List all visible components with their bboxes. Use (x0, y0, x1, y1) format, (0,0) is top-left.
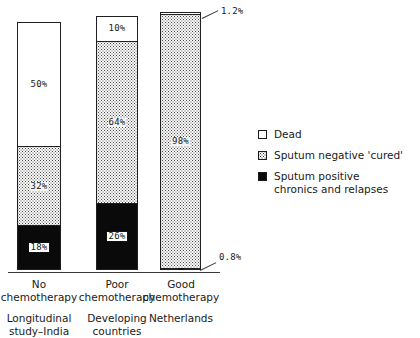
x-tick-secondary-label: Netherlands (133, 312, 229, 325)
x-tick-primary-label: Good chemotherapy (133, 278, 229, 304)
callout-sputum-positive-good-chemotherapy: 0.8% (219, 252, 241, 262)
bar-segment-cured[interactable]: 98% (160, 14, 201, 269)
legend-swatch-dead-icon (258, 130, 267, 139)
bar-segment-label-sputum-positive: 26% (106, 231, 129, 242)
legend-label-dead: Dead (274, 128, 302, 141)
legend-label-sputum-positive: Sputum positive chronics and relapses (274, 170, 388, 196)
bar-segment-label-sputum-positive: 18% (28, 242, 51, 253)
bar-segment-cured[interactable]: 32% (17, 146, 61, 226)
legend-item-dead[interactable]: Dead (258, 128, 418, 141)
x-tick-good-chemotherapy: Good chemotherapy Netherlands (133, 278, 229, 325)
bar-no-chemotherapy[interactable]: 50% 32% 18% (17, 22, 61, 272)
bar-segment-sputum-positive[interactable] (160, 268, 201, 270)
bar-good-chemotherapy[interactable]: 98% (160, 12, 201, 272)
bar-segment-label-cured: 98% (171, 137, 190, 146)
bar-segment-sputum-positive[interactable]: 26% (96, 203, 138, 270)
callout-dead-good-chemotherapy: 1.2% (221, 6, 243, 16)
bar-segment-dead[interactable]: 50% (17, 22, 61, 147)
callout-leader-line-top (202, 10, 219, 19)
bar-segment-cured[interactable]: 64% (96, 41, 138, 205)
bar-segment-label-cured: 64% (108, 118, 127, 127)
legend-swatch-cured-icon (258, 151, 267, 160)
x-axis-baseline (8, 272, 220, 273)
callout-leader-line-bottom (200, 262, 217, 271)
bar-segment-label-dead: 50% (31, 80, 48, 89)
bar-segment-label-sputum-positive (178, 268, 184, 270)
bar-segment-label-cured: 32% (30, 182, 49, 191)
legend-item-sputum-negative[interactable]: Sputum negative 'cured' (258, 149, 418, 162)
legend-item-sputum-positive[interactable]: Sputum positive chronics and relapses (258, 170, 418, 196)
plot-area: 50% 32% 18% 10% 64% 26% (0, 0, 240, 278)
legend-swatch-positive-icon (258, 172, 267, 181)
legend: Dead Sputum negative 'cured' Sputum posi… (258, 128, 418, 204)
bar-segment-dead[interactable]: 10% (96, 16, 138, 42)
legend-label-sputum-negative: Sputum negative 'cured' (274, 149, 403, 162)
bar-segment-sputum-positive[interactable]: 18% (17, 225, 61, 270)
bar-poor-chemotherapy[interactable]: 10% 64% 26% (96, 16, 138, 272)
bar-segment-label-dead: 10% (109, 24, 126, 33)
